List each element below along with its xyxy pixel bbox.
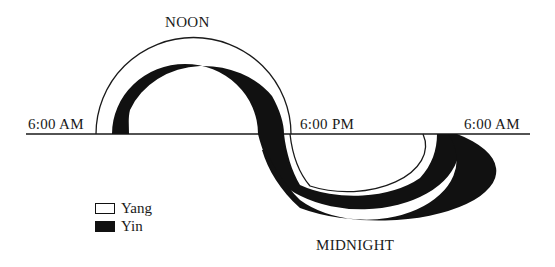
yin-yang-cycle-diagram	[0, 0, 555, 267]
yin-swatch	[95, 221, 115, 232]
yin-night-band	[258, 134, 459, 209]
noon-label: NOON	[165, 14, 210, 31]
yin-day-band	[112, 64, 284, 134]
right-6am-label: 6:00 AM	[464, 116, 520, 133]
legend-yin-label: Yin	[121, 218, 143, 235]
left-6am-label: 6:00 AM	[28, 116, 84, 133]
yang-swatch	[95, 203, 115, 214]
legend-yin: Yin	[95, 218, 143, 235]
midnight-label: MIDNIGHT	[316, 237, 394, 254]
6pm-label: 6:00 PM	[300, 116, 354, 133]
legend-yang-label: Yang	[121, 200, 152, 217]
legend-yang: Yang	[95, 200, 152, 217]
yang-night-arc	[290, 134, 426, 192]
